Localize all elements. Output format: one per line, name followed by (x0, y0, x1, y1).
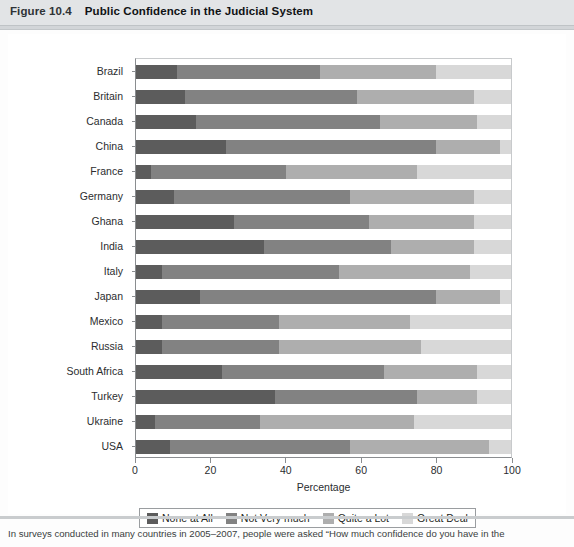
bar-segment (436, 290, 500, 304)
bar-segment (474, 90, 512, 104)
x-axis-tick (361, 458, 362, 463)
bar-segment (275, 390, 418, 404)
bar-segment (279, 315, 410, 329)
bar-segment (260, 415, 414, 429)
stacked-bar (136, 90, 511, 104)
y-axis-label: Ghana (8, 208, 130, 233)
stacked-bar (136, 315, 511, 329)
bar-segment (391, 240, 474, 254)
figure-header: Figure 10.4 Public Confidence in the Jud… (10, 5, 313, 17)
bar-segment (320, 65, 436, 79)
bar-segment (136, 265, 162, 279)
bar-segment (177, 65, 320, 79)
y-axis-label: Britain (8, 83, 130, 108)
bar-segment (136, 215, 234, 229)
bar-segment (369, 215, 474, 229)
y-axis-label: China (8, 133, 130, 158)
header-divider (0, 26, 574, 30)
y-axis-label: Brazil (8, 58, 130, 83)
x-axis-tick-label: 100 (503, 464, 521, 476)
x-axis-tick (135, 458, 136, 463)
x-axis-tick-label: 80 (431, 464, 443, 476)
y-axis-label: South Africa (8, 358, 130, 383)
bar-segment (185, 90, 358, 104)
bar-segment (410, 315, 511, 329)
y-axis-label: Germany (8, 183, 130, 208)
x-axis-tick (436, 458, 437, 463)
bar-segment (136, 190, 174, 204)
bar-row (136, 184, 511, 209)
bar-segment (436, 65, 511, 79)
stacked-bar (136, 265, 511, 279)
stacked-bar (136, 290, 511, 304)
bar-segment (339, 265, 470, 279)
bar-row (136, 334, 511, 359)
bar-segment (421, 340, 511, 354)
figure-caption: In surveys conducted in many countries i… (8, 527, 568, 540)
bar-segment (136, 65, 177, 79)
x-axis-tick-label: 40 (280, 464, 292, 476)
bar-segment (136, 365, 222, 379)
y-axis-label: Mexico (8, 308, 130, 333)
x-axis-tick-label: 0 (132, 464, 138, 476)
stacked-bar (136, 365, 511, 379)
bar-segment (417, 390, 477, 404)
bar-segment (474, 190, 512, 204)
bar-row (136, 109, 511, 134)
bar-segment (384, 365, 478, 379)
bar-segment (477, 365, 511, 379)
chart-canvas: BrazilBritainCanadaChinaFranceGermanyGha… (8, 34, 566, 514)
y-axis-label: Japan (8, 283, 130, 308)
bar-row (136, 159, 511, 184)
bar-row (136, 234, 511, 259)
bar-segment (286, 165, 417, 179)
bar-segment (174, 190, 350, 204)
bar-row (136, 409, 511, 434)
bar-segment (136, 440, 170, 454)
stacked-bar (136, 240, 511, 254)
y-axis-label: Russia (8, 333, 130, 358)
figure-number: Figure 10.4 (10, 5, 72, 17)
x-axis-tick (512, 458, 513, 463)
bar-segment (350, 440, 489, 454)
bar-rows (136, 59, 511, 457)
bar-segment (200, 290, 436, 304)
bar-segment (414, 415, 512, 429)
bar-row (136, 259, 511, 284)
x-axis-title: Percentage (135, 481, 512, 493)
stacked-bar (136, 415, 511, 429)
y-axis-label: France (8, 158, 130, 183)
bar-segment (136, 315, 162, 329)
stacked-bar (136, 215, 511, 229)
bar-segment (264, 240, 392, 254)
bar-segment (489, 440, 512, 454)
bar-segment (136, 340, 162, 354)
bar-segment (136, 290, 200, 304)
bar-segment (226, 140, 436, 154)
bar-row (136, 209, 511, 234)
bar-segment (136, 390, 275, 404)
y-axis-labels: BrazilBritainCanadaChinaFranceGermanyGha… (8, 58, 130, 458)
bar-row (136, 284, 511, 309)
x-axis-tick-label: 20 (205, 464, 217, 476)
figure-header-band: Figure 10.4 Public Confidence in the Jud… (0, 0, 574, 26)
bar-segment (162, 340, 278, 354)
bar-segment (350, 190, 474, 204)
bar-segment (136, 90, 185, 104)
bar-segment (170, 440, 350, 454)
stacked-bar (136, 190, 511, 204)
bar-segment (380, 115, 478, 129)
bar-segment (162, 265, 338, 279)
bar-segment (470, 265, 511, 279)
plot-area (135, 58, 512, 458)
page-title: Public Confidence in the Judicial System (85, 5, 313, 17)
y-axis-label: Canada (8, 108, 130, 133)
bar-segment (136, 140, 226, 154)
bar-row (136, 84, 511, 109)
bar-segment (500, 140, 511, 154)
bar-segment (474, 240, 512, 254)
bar-segment (196, 115, 380, 129)
stacked-bar (136, 340, 511, 354)
x-axis-tick-label: 60 (355, 464, 367, 476)
stacked-bar (136, 390, 511, 404)
